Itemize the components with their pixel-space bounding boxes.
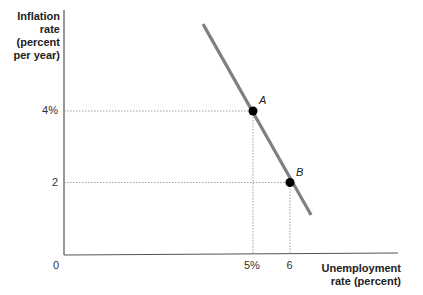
phillips-curve-line: [203, 24, 311, 215]
x-tick-5: 5%: [244, 259, 260, 271]
x-axis-label-line: Unemployment: [322, 262, 401, 275]
point-a-marker: [249, 107, 258, 116]
point-b-marker: [286, 178, 295, 187]
guide-lines: [64, 111, 290, 254]
point-a-label: A: [259, 94, 266, 106]
point-b-label: B: [296, 166, 303, 178]
y-tick-4: 4%: [42, 104, 58, 116]
origin-label: 0: [53, 259, 59, 271]
y-tick-2: 2: [52, 176, 58, 188]
y-axis-label-line: Inflation: [14, 10, 60, 23]
y-axis-label: Inflation rate (percent per year): [14, 10, 60, 62]
y-axis-label-line: rate: [14, 23, 60, 36]
y-axis-label-line: per year): [14, 49, 60, 62]
y-axis-label-line: (percent: [14, 36, 60, 49]
phillips-curve-chart: [0, 0, 423, 295]
x-axis-label-line: rate (percent): [322, 275, 401, 288]
x-tick-6: 6: [287, 259, 293, 271]
x-axis: [64, 253, 398, 255]
x-axis-label: Unemployment rate (percent): [322, 262, 401, 288]
